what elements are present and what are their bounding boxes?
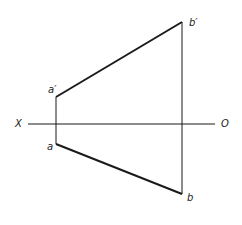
point-label-b-prime: b′	[189, 18, 198, 28]
point-label-a: a	[47, 142, 53, 152]
top-view-line-ab	[56, 144, 182, 194]
axis-label-o: O	[221, 119, 229, 129]
projection-diagram	[0, 0, 242, 225]
axis-label-x: X	[15, 119, 22, 129]
point-label-b: b	[187, 193, 193, 203]
point-label-a-prime: a′	[48, 85, 56, 95]
front-view-line-ab	[56, 22, 182, 97]
